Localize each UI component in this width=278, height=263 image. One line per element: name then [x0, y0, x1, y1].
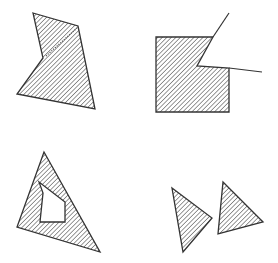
concave-polygon	[17, 13, 95, 109]
two-triangles	[172, 182, 263, 252]
extended-edge-right	[229, 68, 262, 72]
polygon-figure	[0, 0, 278, 263]
concave-polygon-shape	[17, 13, 95, 109]
square-with-notch	[156, 13, 262, 112]
triangle-left	[172, 188, 212, 252]
triangle-right	[218, 182, 263, 234]
extended-edge-top	[213, 13, 229, 37]
triangle-with-hole	[17, 152, 100, 252]
notched-square-shape	[156, 37, 229, 112]
